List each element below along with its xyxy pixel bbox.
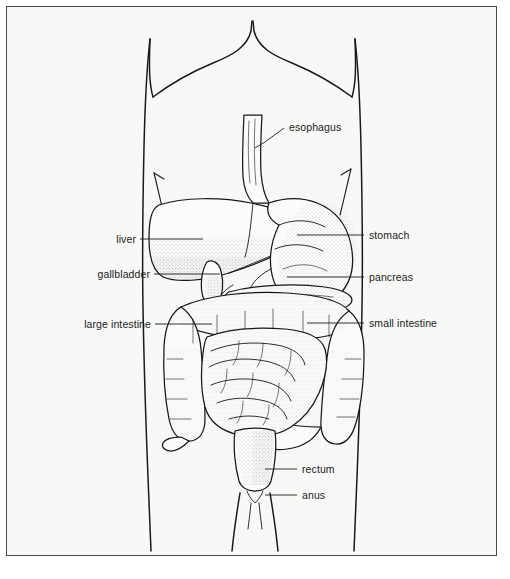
label-pancreas: pancreas bbox=[369, 271, 413, 283]
label-rectum: rectum bbox=[302, 463, 335, 475]
esophagus-organ bbox=[243, 115, 269, 203]
label-gallbladder: gallbladder bbox=[98, 268, 151, 280]
label-large-intestine: large intestine bbox=[84, 318, 151, 330]
label-esophagus: esophagus bbox=[289, 121, 341, 133]
label-small-intestine: small intestine bbox=[369, 317, 437, 329]
anatomy-illustration: esophagus stomach pancreas small intesti… bbox=[7, 7, 497, 556]
label-liver: liver bbox=[116, 233, 136, 245]
figure-frame: esophagus stomach pancreas small intesti… bbox=[6, 6, 497, 556]
label-stomach: stomach bbox=[369, 229, 409, 241]
anus-organ bbox=[247, 491, 263, 529]
figure-root: esophagus stomach pancreas small intesti… bbox=[0, 0, 510, 579]
small-intestine-organ bbox=[202, 328, 327, 436]
small-intestine-shading bbox=[202, 328, 327, 436]
label-anus: anus bbox=[302, 489, 325, 501]
rectum-organ bbox=[233, 427, 279, 493]
